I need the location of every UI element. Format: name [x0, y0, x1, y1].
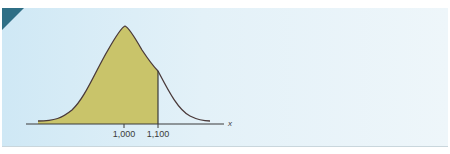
x-axis-label: x	[227, 119, 233, 128]
tick-label-1100: 1,100	[147, 129, 170, 139]
tick-label-1000: 1,000	[113, 129, 136, 139]
shaded-area	[38, 26, 158, 124]
normal-curve-chart: 1,000 1,100 x	[0, 0, 450, 154]
